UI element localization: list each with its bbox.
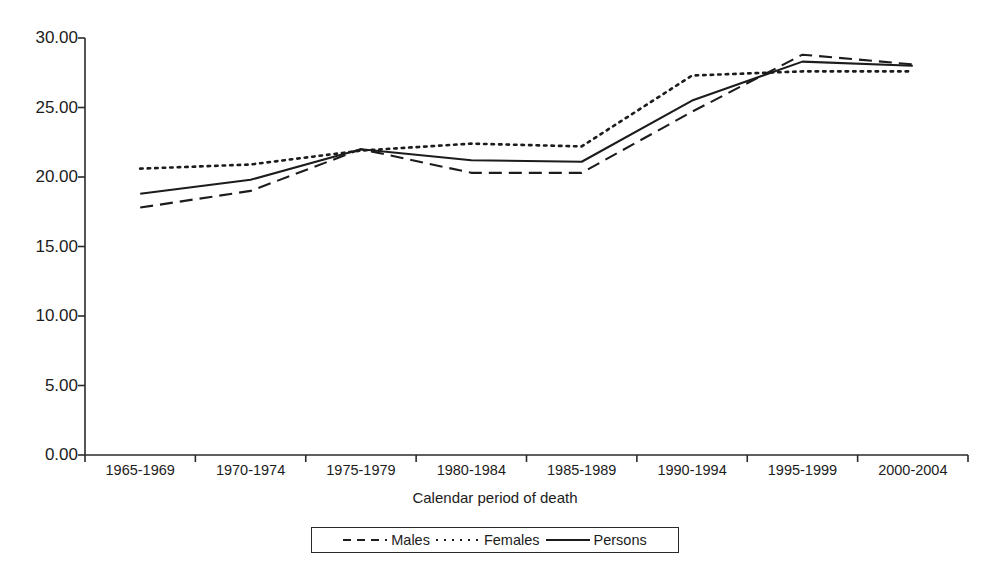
legend-label-males: Males xyxy=(391,532,430,548)
series-line-males xyxy=(140,55,913,208)
data-series-group xyxy=(140,55,913,208)
chart-legend: Males Females Persons xyxy=(311,527,679,553)
axes xyxy=(78,38,968,462)
legend-label-females: Females xyxy=(484,532,540,548)
x-axis-title: Calendar period of death xyxy=(0,489,990,506)
x-axis-ticks xyxy=(85,455,968,462)
legend-label-persons: Persons xyxy=(594,532,647,548)
series-line-persons xyxy=(140,62,913,194)
y-axis-ticks xyxy=(78,38,85,455)
solid-line-swatch-icon xyxy=(546,535,590,545)
line-chart: 0.005.0010.0015.0020.0025.0030.00 1965-1… xyxy=(0,0,990,585)
legend-item-females: Females xyxy=(433,532,543,548)
dotted-line-swatch-icon xyxy=(436,535,480,545)
dashed-line-swatch-icon xyxy=(343,535,387,545)
legend-item-persons: Persons xyxy=(543,532,650,548)
legend-item-males: Males xyxy=(340,532,433,548)
series-line-females xyxy=(140,71,913,168)
